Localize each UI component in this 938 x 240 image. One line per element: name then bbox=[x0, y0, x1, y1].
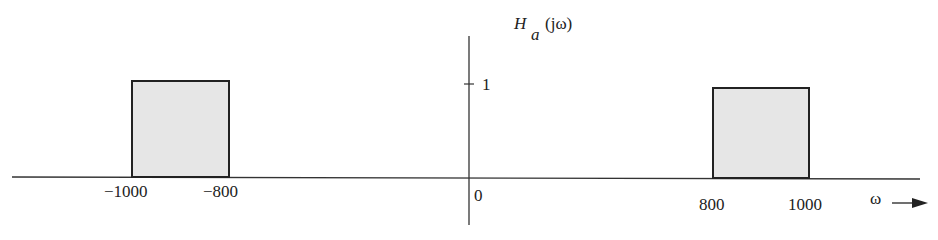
pulse-negative-band bbox=[132, 81, 229, 177]
x-tick-label-neg800: −800 bbox=[203, 182, 238, 201]
x-tick-label-800: 800 bbox=[699, 195, 725, 214]
x-axis-title-omega: ω bbox=[870, 189, 881, 208]
bandpass-frequency-response-chart: H a (jω) 1 0 −1000 −800 800 1000 ω bbox=[0, 0, 938, 240]
pulse-positive-band bbox=[713, 88, 809, 178]
arrow-right-icon bbox=[912, 198, 928, 208]
y-tick-label-1: 1 bbox=[482, 75, 491, 94]
y-axis-title-H: H bbox=[513, 14, 528, 33]
x-tick-label-1000: 1000 bbox=[788, 195, 822, 214]
x-tick-label-neg1000: −1000 bbox=[104, 182, 148, 201]
y-axis-title-arg: (jω) bbox=[545, 14, 572, 33]
y-axis-title-sub: a bbox=[531, 25, 540, 44]
x-tick-label-0: 0 bbox=[474, 186, 483, 205]
